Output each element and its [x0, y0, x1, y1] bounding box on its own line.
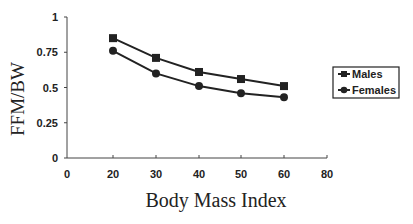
x-axis-ticks: 0203040506080: [64, 155, 333, 180]
circle-marker-icon: [109, 47, 117, 55]
y-axis-label: FFM/BW: [7, 62, 28, 136]
legend-females-label: Females: [352, 84, 396, 96]
square-marker-icon: [195, 68, 203, 76]
x-tick-label: 50: [235, 168, 247, 180]
y-tick-label: 1: [52, 11, 58, 23]
square-marker-icon: [109, 34, 117, 42]
square-marker-icon: [341, 71, 347, 77]
legend: Males Females: [333, 67, 399, 98]
y-tick-label: 0.5: [43, 82, 58, 94]
x-axis-label: Body Mass Index: [145, 189, 286, 212]
circle-marker-icon: [195, 82, 203, 90]
x-tick-label: 30: [150, 168, 162, 180]
series-line-males: [113, 38, 284, 86]
plot-area: [109, 34, 288, 101]
square-marker-icon: [280, 82, 288, 90]
x-tick-label: 0: [64, 168, 70, 180]
circle-marker-icon: [237, 89, 245, 97]
y-tick-label: 0: [52, 152, 58, 164]
square-marker-icon: [152, 54, 160, 62]
circle-marker-icon: [280, 93, 288, 101]
x-tick-label: 40: [193, 168, 205, 180]
circle-marker-icon: [341, 87, 348, 94]
y-tick-label: 0.25: [37, 117, 58, 129]
y-tick-label: 0.75: [37, 46, 58, 58]
x-tick-label: 80: [321, 168, 333, 180]
y-axis-ticks: 00.250.50.751: [37, 11, 67, 164]
line-chart: 00.250.50.751 0203040506080 Body Mass In…: [0, 0, 413, 224]
x-tick-label: 60: [278, 168, 290, 180]
circle-marker-icon: [152, 69, 160, 77]
legend-males-label: Males: [352, 68, 383, 80]
square-marker-icon: [237, 75, 245, 83]
x-tick-label: 20: [107, 168, 119, 180]
